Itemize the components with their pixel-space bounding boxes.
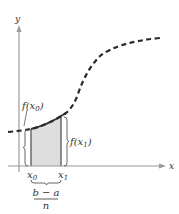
f-x1-brace xyxy=(64,117,69,166)
width-numerator: b − a xyxy=(32,187,59,198)
f-x1-label: f(x1) xyxy=(69,136,92,149)
f-x0-brace xyxy=(23,129,28,166)
x-axis-label: x xyxy=(169,161,174,171)
x0-label: x0 xyxy=(27,169,38,182)
f-x0-leader xyxy=(24,110,27,126)
f-x0-label: f(x0) xyxy=(21,100,44,113)
trapezoid-rule-diagram: y x f(x0) f(x1) x0 x1 b − a n xyxy=(0,0,179,214)
y-axis-label: y xyxy=(14,14,21,24)
width-denominator: n xyxy=(43,200,49,211)
x-axis-arrow-icon xyxy=(159,164,166,169)
dashed-curve xyxy=(8,38,160,132)
y-axis-arrow-icon xyxy=(17,25,22,32)
x1-label: x1 xyxy=(58,169,68,182)
